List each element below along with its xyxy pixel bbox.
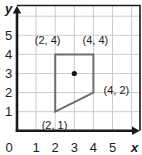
y-tick-label: 5: [5, 28, 12, 43]
x-tick-label: 1: [32, 140, 39, 155]
y-axis-label: y: [4, 1, 13, 16]
vertex-label: (4, 4): [83, 34, 109, 46]
x-tick-label: 5: [109, 140, 116, 155]
y-tick-label: 1: [5, 104, 12, 119]
y-tick-label: 2: [5, 85, 12, 100]
x-axis-label: x: [130, 140, 139, 155]
vertex-label: (2, 4): [35, 34, 61, 46]
coordinate-plane: (2, 4)(4, 4)(4, 2)(2, 1)012345x12345y: [0, 0, 142, 155]
coordinate-plane-figure: (2, 4)(4, 4)(4, 2)(2, 1)012345x12345y: [0, 0, 142, 155]
x-tick-label: 0: [5, 140, 12, 155]
x-tick-label: 3: [71, 140, 78, 155]
y-axis-arrow-icon: [13, 6, 21, 14]
x-axis-arrow-icon: [132, 127, 140, 135]
vertex-label: (4, 2): [104, 84, 130, 96]
y-tick-label: 3: [5, 66, 12, 81]
y-tick-label: 4: [5, 47, 12, 62]
vertex-label: (2, 1): [42, 119, 68, 131]
x-tick-label: 2: [52, 140, 59, 155]
x-tick-label: 4: [90, 140, 97, 155]
marked-point: [72, 71, 77, 76]
